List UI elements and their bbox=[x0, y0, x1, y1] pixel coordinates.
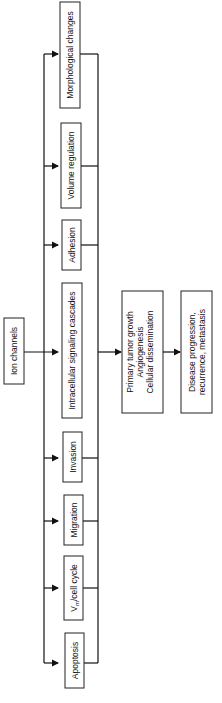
svg-text:recurrence, metastasis: recurrence, metastasis bbox=[197, 309, 207, 395]
svg-text:Intracellular signaling cascad: Intracellular signaling cascades bbox=[67, 291, 77, 409]
process-arrows bbox=[44, 54, 58, 663]
svg-text:Migration: Migration bbox=[69, 502, 79, 537]
svg-text:Disease progression,: Disease progression, bbox=[187, 312, 197, 392]
final-node: Disease progression, recurrence, metasta… bbox=[181, 291, 212, 413]
ion-channel-flow-diagram: Ion channels Morphological changes Volum… bbox=[0, 0, 222, 703]
process-apoptosis: Apoptosis bbox=[65, 633, 84, 688]
process-vm-cell-cycle: Vm/cell cycle bbox=[64, 556, 83, 620]
process-invasion: Invasion bbox=[63, 432, 82, 482]
process-adhesion: Adhesion bbox=[62, 220, 81, 270]
svg-text:Cellular dissemination: Cellular dissemination bbox=[145, 310, 155, 393]
process-morphological-changes: Morphological changes bbox=[60, 2, 80, 108]
svg-text:Volume regulation: Volume regulation bbox=[66, 131, 76, 199]
svg-text:Adhesion: Adhesion bbox=[67, 227, 77, 263]
svg-text:Apoptosis: Apoptosis bbox=[70, 642, 80, 679]
process-intracellular-signaling: Intracellular signaling cascades bbox=[62, 283, 82, 418]
outcome-node: Primary tumor growth Angiogenesis Cellul… bbox=[122, 291, 163, 413]
ion-channels-label: Ion channels bbox=[9, 327, 19, 375]
svg-text:Primary tumor growth: Primary tumor growth bbox=[125, 311, 135, 393]
svg-text:Morphological changes: Morphological changes bbox=[65, 11, 75, 98]
ion-channels-node: Ion channels bbox=[4, 318, 24, 384]
svg-text:Angiogenesis: Angiogenesis bbox=[135, 326, 145, 377]
process-volume-regulation: Volume regulation bbox=[61, 123, 81, 208]
process-migration: Migration bbox=[64, 495, 83, 545]
svg-text:Invasion: Invasion bbox=[68, 441, 78, 473]
